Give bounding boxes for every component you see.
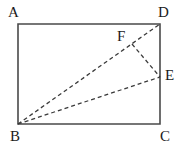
vertex-label-a: A [8, 5, 19, 20]
geometry-figure: A D F E B C [0, 0, 184, 152]
vertex-label-e: E [165, 68, 174, 83]
vertex-label-d: D [158, 5, 169, 20]
vertex-label-b: B [10, 129, 20, 144]
vertex-label-f: F [117, 29, 125, 44]
figure-canvas [0, 0, 184, 152]
vertex-label-c: C [160, 129, 170, 144]
figure-background [0, 0, 184, 152]
